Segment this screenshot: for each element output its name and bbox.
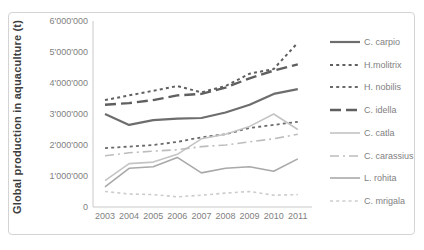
legend-item-h-molitrix: H.molitrix (330, 59, 402, 71)
legend-label: C. carassius (364, 151, 414, 161)
series-line-l-rohita (105, 157, 298, 186)
legend-line-sample (330, 105, 360, 115)
legend-line-sample (330, 151, 360, 161)
aquaculture-production-chart: Global production in aquaculture (t) 01'… (0, 0, 424, 250)
legend-line-sample (330, 128, 360, 138)
legend-item-h-nobilis: H. nobilis (330, 81, 401, 93)
legend-item-c-carassius: C. carassius (330, 150, 414, 162)
legend-line-sample (330, 60, 360, 70)
series-line-h-nobilis (105, 122, 298, 148)
legend-item-c-catla: C. catla (330, 127, 395, 139)
x-tick-label: 2011 (284, 211, 312, 221)
y-tick-label: 4'000'000 (36, 78, 88, 88)
legend-label: C. carpio (364, 37, 400, 47)
legend-item-l-rohita: L. rohita (330, 172, 397, 184)
legend-label: C. mrigala (364, 196, 405, 206)
legend-label: H. nobilis (364, 82, 401, 92)
y-tick-label: 0 (36, 202, 88, 212)
legend-label: C. catla (364, 128, 395, 138)
series-line-c-mrigala (105, 192, 298, 197)
legend-item-c-idella: C. idella (330, 104, 397, 116)
y-tick-label: 2'000'000 (36, 140, 88, 150)
legend-line-sample (330, 82, 360, 92)
series-line-c-carassius (105, 134, 298, 156)
legend-line-sample (330, 37, 360, 47)
legend-item-c-mrigala: C. mrigala (330, 195, 405, 207)
legend-label: C. idella (364, 105, 397, 115)
y-tick-label: 1'000'000 (36, 171, 88, 181)
y-tick-label: 5'000'000 (36, 47, 88, 57)
legend-item-c-carpio: C. carpio (330, 36, 400, 48)
legend-line-sample (330, 173, 360, 183)
legend-line-sample (330, 196, 360, 206)
y-tick-label: 3'000'000 (36, 109, 88, 119)
legend-label: L. rohita (364, 173, 397, 183)
legend-label: H.molitrix (364, 60, 402, 70)
y-tick-label: 6'000'000 (36, 16, 88, 26)
